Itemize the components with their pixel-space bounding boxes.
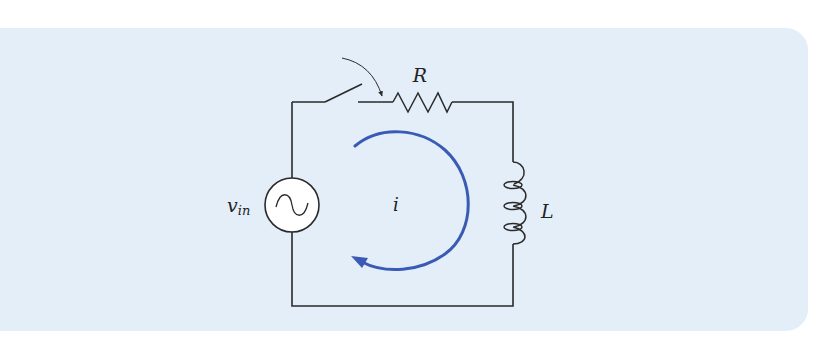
ac-source-icon (265, 178, 319, 232)
current-arrow-icon (351, 132, 468, 270)
current-label: i (393, 194, 399, 215)
circuit-diagram: R L vin i (0, 0, 826, 347)
inductor-label: L (540, 200, 554, 222)
resistor-label: R (412, 64, 427, 86)
resistor-icon (393, 93, 452, 112)
inductor-icon (504, 162, 526, 244)
switch-icon (325, 84, 362, 102)
source-label: vin (227, 194, 250, 218)
